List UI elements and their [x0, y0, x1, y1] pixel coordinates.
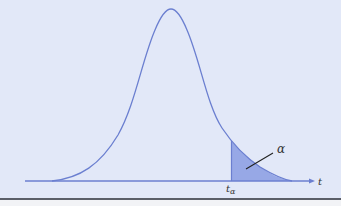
alpha-label: α: [277, 142, 285, 156]
footer-strip: [0, 200, 341, 206]
t-distribution-diagram: α t tα: [0, 0, 341, 198]
critical-value-label: tα: [226, 183, 236, 196]
density-curve: [52, 9, 292, 181]
critical-value-subscript: α: [230, 187, 236, 196]
axis-arrow-icon: [309, 179, 315, 184]
t-axis-label: t: [318, 176, 323, 187]
